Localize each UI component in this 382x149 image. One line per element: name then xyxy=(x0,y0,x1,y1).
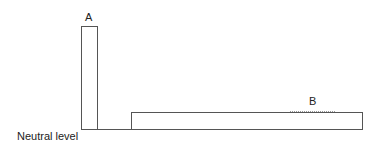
diagram-canvas xyxy=(0,0,382,149)
column-b-shape xyxy=(132,113,363,130)
column-a-shape xyxy=(82,27,98,130)
label-b: B xyxy=(309,96,316,107)
label-neutral-level: Neutral level xyxy=(17,131,78,142)
label-a: A xyxy=(85,12,92,23)
